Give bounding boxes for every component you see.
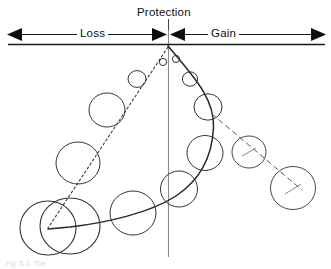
loss-arrowhead-left-icon	[7, 28, 22, 41]
loss-node-3	[89, 93, 125, 127]
gain-dashed-branch	[212, 114, 302, 190]
gain-arrowhead-right-icon	[311, 28, 326, 41]
protection-arrowhead-right-icon	[152, 28, 167, 41]
gain-node-4	[187, 136, 223, 171]
loss-node-4	[56, 142, 100, 184]
gain-node-7	[40, 198, 100, 254]
gain-label: Gain	[208, 27, 239, 40]
loss-label: Loss	[77, 27, 108, 40]
branch-tick-2	[285, 184, 301, 194]
protection-label: Protection	[134, 6, 194, 19]
diagram-canvas	[0, 0, 331, 269]
branch-tick-1	[242, 148, 256, 156]
gain-node-6	[110, 191, 156, 235]
figure-container: Protection Loss Gain Fig. 5-3. The	[0, 0, 331, 269]
gain-branch-circle-group	[232, 136, 316, 210]
gain-branch-node-2	[271, 167, 316, 210]
loss-node-2	[128, 71, 146, 88]
loss-dotted-trajectory	[48, 47, 168, 228]
loss-node-1	[159, 58, 166, 65]
gain-node-5	[161, 171, 198, 207]
branch-inner-ticks	[242, 148, 301, 194]
figure-caption: Fig. 5-3. The	[6, 259, 46, 268]
loss-circle-group	[20, 58, 167, 255]
gain-node-3	[194, 94, 222, 120]
protection-arrowhead-left-icon	[170, 28, 185, 41]
